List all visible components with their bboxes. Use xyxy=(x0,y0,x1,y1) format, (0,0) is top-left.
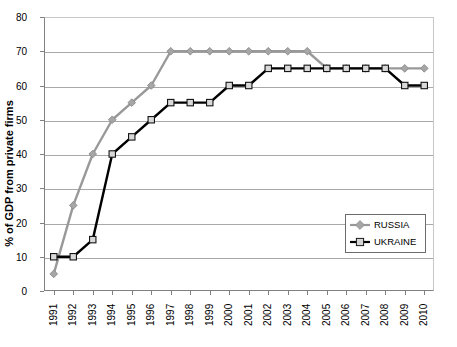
data-point-ukraine-2005 xyxy=(324,65,330,71)
x-tick-label: 2003 xyxy=(281,282,295,326)
x-tick-label: 1992 xyxy=(66,282,80,326)
x-tick-label: 2010 xyxy=(417,282,431,326)
data-point-ukraine-1994 xyxy=(109,151,115,157)
gdp-private-firms-line-chart: % of GDP from private firms 010203040506… xyxy=(0,0,457,347)
data-point-ukraine-2009 xyxy=(402,82,408,88)
y-tick-label: 40 xyxy=(3,149,27,160)
x-tick-label: 2001 xyxy=(242,282,256,326)
x-tick-label: 1995 xyxy=(125,282,139,326)
x-tick-label: 2004 xyxy=(300,282,314,326)
data-point-ukraine-2003 xyxy=(285,65,291,71)
legend-label-ukraine: UKRAINE xyxy=(374,237,416,247)
data-point-ukraine-1995 xyxy=(129,134,135,140)
data-point-russia-1999 xyxy=(206,47,214,55)
data-point-ukraine-1998 xyxy=(187,99,193,105)
data-point-ukraine-1999 xyxy=(207,99,213,105)
data-point-ukraine-2008 xyxy=(382,65,388,71)
x-tick-label: 2002 xyxy=(261,282,275,326)
x-tick-label: 1999 xyxy=(203,282,217,326)
x-tick-label: 1991 xyxy=(47,282,61,326)
x-tick-label: 2006 xyxy=(339,282,353,326)
legend-label-russia: RUSSIA xyxy=(374,220,409,230)
y-tick-mark xyxy=(40,291,44,292)
data-point-ukraine-1996 xyxy=(148,117,154,123)
x-tick-label: 1998 xyxy=(183,282,197,326)
data-point-russia-1991 xyxy=(50,270,58,278)
legend-swatch-russia xyxy=(349,219,371,231)
data-point-russia-2000 xyxy=(225,47,233,55)
data-point-ukraine-2004 xyxy=(304,65,310,71)
data-point-ukraine-1997 xyxy=(168,99,174,105)
y-tick-label: 70 xyxy=(3,46,27,57)
x-tick-label: 2009 xyxy=(398,282,412,326)
x-tick-label: 2007 xyxy=(359,282,373,326)
data-point-russia-2009 xyxy=(401,65,409,73)
y-tick-label: 20 xyxy=(3,217,27,228)
data-point-russia-1998 xyxy=(186,47,194,55)
data-point-ukraine-1991 xyxy=(51,254,57,260)
data-point-russia-2001 xyxy=(245,47,253,55)
x-tick-label: 1994 xyxy=(105,282,119,326)
x-tick-label: 1996 xyxy=(144,282,158,326)
legend-item-ukraine[interactable]: UKRAINE xyxy=(349,234,425,251)
data-point-ukraine-1993 xyxy=(90,236,96,242)
y-tick-label: 30 xyxy=(3,183,27,194)
chart-legend: RUSSIA UKRAINE xyxy=(345,214,426,253)
y-tick-label: 10 xyxy=(3,251,27,262)
y-tick-label: 50 xyxy=(3,114,27,125)
data-point-ukraine-1992 xyxy=(70,254,76,260)
data-point-ukraine-2000 xyxy=(226,82,232,88)
data-point-ukraine-2010 xyxy=(421,82,427,88)
y-tick-label: 60 xyxy=(3,80,27,91)
x-tick-label: 1997 xyxy=(164,282,178,326)
y-tick-label: 0 xyxy=(3,286,27,297)
data-point-ukraine-2007 xyxy=(363,65,369,71)
x-tick-label: 1993 xyxy=(86,282,100,326)
data-point-ukraine-2001 xyxy=(246,82,252,88)
legend-swatch-ukraine xyxy=(349,236,371,248)
legend-item-russia[interactable]: RUSSIA xyxy=(349,217,425,234)
data-point-russia-2010 xyxy=(420,65,428,73)
x-tick-label: 2000 xyxy=(222,282,236,326)
data-point-russia-1992 xyxy=(69,202,77,210)
data-point-ukraine-2002 xyxy=(265,65,271,71)
data-point-russia-2003 xyxy=(284,47,292,55)
x-tick-label: 2008 xyxy=(378,282,392,326)
data-point-ukraine-2006 xyxy=(343,65,349,71)
y-tick-label: 80 xyxy=(3,12,27,23)
data-point-russia-2002 xyxy=(264,47,272,55)
x-tick-label: 2005 xyxy=(320,282,334,326)
